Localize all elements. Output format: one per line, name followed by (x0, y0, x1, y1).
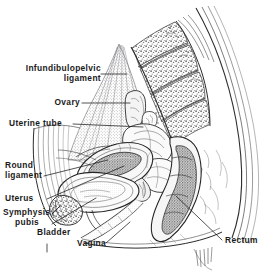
label-infundibulopelvic-ligament-line2: ligament (0, 74, 101, 84)
label-round-ligament-line2: ligament (5, 171, 42, 181)
label-infundibulopelvic-ligament: Infundibulopelvic ligament (0, 64, 101, 83)
label-uterine-tube: Uterine tube (9, 119, 62, 129)
label-rectum: Rectum (225, 236, 258, 246)
label-uterus: Uterus (5, 194, 34, 204)
label-ovary: Ovary (0, 98, 80, 108)
label-symphysis-pubis-line2: pubis (3, 218, 50, 228)
label-round-ligament: Round ligament (5, 161, 42, 180)
label-symphysis-pubis: Symphysis pubis (3, 208, 50, 227)
label-bladder: Bladder (37, 228, 71, 238)
label-vagina: Vagina (77, 239, 106, 249)
